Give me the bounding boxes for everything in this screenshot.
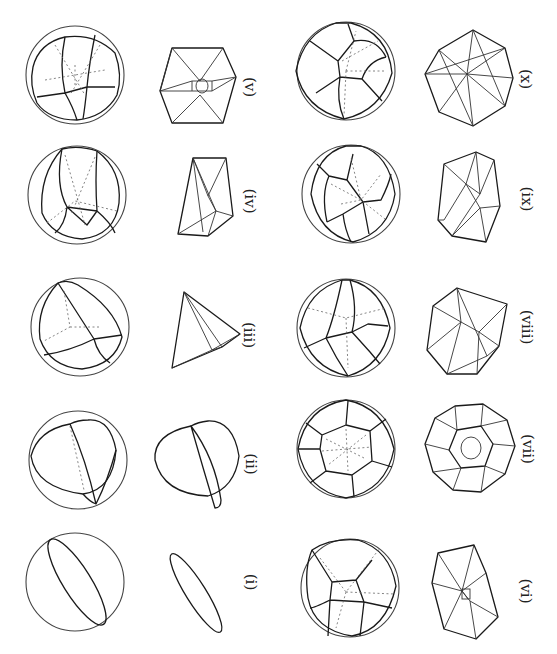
polyhedron-ii-lens [153, 418, 243, 510]
panel-label-i: (i) [242, 574, 260, 591]
polyhedron-vii-dodecahedron [425, 402, 517, 494]
sphere-x [296, 21, 396, 121]
polyhedron-iii-tetrahedron [172, 290, 242, 370]
polyhedron-ix [436, 150, 506, 244]
panel-label-vii: (vii) [519, 434, 537, 464]
sphere-iii [30, 277, 130, 377]
panel-label-x: (x) [517, 69, 535, 89]
figure-sphere-partitions: (v) (iv) (iii) [0, 0, 557, 654]
panel-label-iv: (iv) [241, 189, 259, 214]
sphere-vii [296, 399, 396, 499]
panel-label-viii: (viii) [518, 310, 536, 345]
panel-label-ix: (ix) [518, 187, 536, 212]
sphere-v [25, 25, 125, 125]
polyhedron-vi-pentagonal-prism [432, 543, 502, 641]
polyhedron-iv-prism [178, 156, 238, 238]
sphere-ii [28, 410, 128, 510]
polyhedron-v-cube [160, 45, 240, 125]
polyhedron-x [425, 28, 515, 128]
panel-label-iii: (iii) [240, 322, 258, 348]
panel-label-v: (v) [241, 77, 259, 97]
panel-label-ii: (ii) [242, 453, 260, 474]
sphere-vi [300, 538, 400, 638]
sphere-viii [296, 278, 396, 378]
panel-label-vi: (vi) [517, 579, 535, 604]
polyhedron-viii [427, 286, 511, 376]
polyhedron-i-ellipse [165, 548, 227, 638]
sphere-iv [27, 145, 127, 245]
sphere-i [25, 532, 125, 632]
sphere-ix [301, 144, 401, 244]
